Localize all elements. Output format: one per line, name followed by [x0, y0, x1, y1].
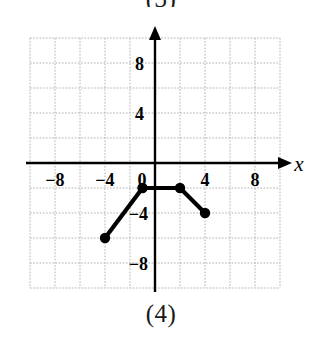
- x-axis: [26, 157, 292, 169]
- x-axis-label: x: [293, 152, 304, 176]
- x-tick-label-neg8: −8: [45, 170, 64, 190]
- data-point-marker: [100, 233, 110, 243]
- y-axis: [149, 26, 161, 292]
- x-tick-label-4: 4: [201, 170, 210, 190]
- y-tick-label-4: 4: [135, 104, 144, 124]
- y-tick-label-8: 8: [135, 54, 144, 74]
- figure-caption-bottom: (4): [0, 300, 322, 328]
- x-tick-label-neg4: −4: [95, 170, 114, 190]
- figure-container: (3): [0, 0, 322, 345]
- x-tick-label-8: 8: [251, 170, 260, 190]
- data-point-marker: [200, 208, 210, 218]
- y-tick-label-neg8: −8: [129, 254, 148, 274]
- coordinate-plane-plot: −8 −4 0 4 8 8 4 −4 −8 x: [0, 0, 322, 345]
- x-tick-label-zero: 0: [138, 170, 147, 190]
- y-tick-label-neg4: −4: [129, 204, 148, 224]
- data-point-marker: [175, 183, 185, 193]
